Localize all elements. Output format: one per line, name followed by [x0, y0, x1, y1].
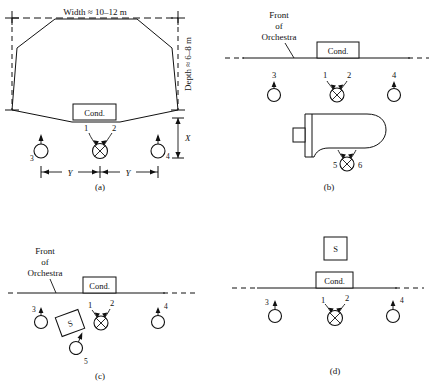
x-arrow-down — [175, 152, 180, 158]
mic-3-arrow — [39, 134, 44, 141]
mic-3-body — [268, 89, 281, 102]
x-dimension-label: X — [184, 133, 191, 143]
panel-c-caption: (c) — [95, 371, 105, 381]
y-arrow-2 — [92, 170, 98, 175]
mic-3-number: 3 — [30, 154, 34, 163]
piano-body — [305, 114, 386, 157]
figure-microphone-arrangements: Width ≈ 10–12 m Depth ≈ 6–8 m Cond. X 3 — [0, 0, 434, 384]
mic-5-number: 5 — [333, 160, 337, 170]
piano-bench — [293, 128, 305, 142]
mic-4-arrow — [392, 81, 397, 87]
mic-5-number: 5 — [84, 357, 88, 366]
mic-4-number: 4 — [400, 296, 404, 305]
mic-4: 4 — [151, 134, 170, 161]
mic-2-number: 2 — [110, 298, 114, 308]
soloist-box: S — [55, 309, 84, 336]
front-label-line1: Front — [35, 246, 55, 256]
front-label-line1: Front — [269, 10, 289, 20]
conductor-label: Cond. — [89, 281, 110, 291]
mic-pair-1-2: 1 2 — [84, 123, 116, 159]
conductor-label: Cond. — [324, 276, 345, 286]
mic-4-arrow — [156, 134, 161, 141]
mic-3-number: 3 — [265, 298, 269, 307]
panel-d-caption: (d) — [330, 366, 341, 376]
panel-b: Front of Orchestra Cond. 3 1 2 — [217, 0, 434, 192]
mic-pair-1-2: 1 2 — [88, 298, 114, 330]
mic-2-lead — [104, 133, 112, 145]
mic-2-number: 2 — [347, 70, 351, 80]
panel-a: Width ≈ 10–12 m Depth ≈ 6–8 m Cond. X 3 — [0, 0, 217, 192]
mic-pair-1-2: 1 2 — [321, 293, 349, 326]
x-arrow-up — [175, 118, 180, 124]
mic-5-body — [68, 340, 85, 357]
conductor-label: Cond. — [84, 108, 105, 118]
mic-4-number: 4 — [164, 302, 168, 311]
mic-3: 3 — [268, 70, 281, 102]
mic-3-number: 3 — [272, 70, 276, 80]
mic-4: 4 — [152, 302, 169, 329]
mic-4: 4 — [388, 70, 401, 102]
mic-3-body — [269, 310, 282, 323]
mic-3-arrow — [272, 81, 277, 87]
mic-4-body — [152, 316, 165, 329]
depth-dimension-label: Depth ≈ 6–8 m — [183, 37, 193, 91]
grand-piano — [293, 114, 386, 157]
mic-4: 4 — [387, 296, 405, 323]
mic-5-arrow — [78, 331, 85, 339]
front-label-line3: Orchestra — [28, 268, 63, 278]
mic-2-number: 2 — [112, 123, 116, 133]
y-arrow-3 — [102, 170, 108, 175]
panel-b-caption: (b) — [324, 182, 335, 192]
mic-4-number: 4 — [392, 70, 397, 80]
conductor-label: Cond. — [328, 46, 349, 56]
front-label-line3: Orchestra — [262, 32, 297, 42]
mic-1-number: 1 — [88, 300, 92, 310]
mic-4-arrow — [391, 300, 396, 306]
mic-3-arrow — [273, 300, 278, 306]
y-arrow-4 — [150, 170, 156, 175]
front-leader-line — [50, 279, 56, 293]
y-arrow-1 — [43, 170, 49, 175]
mic-1-number: 1 — [321, 295, 325, 305]
mic-3-number: 3 — [32, 305, 36, 314]
mic-2-number: 2 — [345, 293, 349, 303]
width-dimension-label: Width ≈ 10–12 m — [63, 7, 126, 17]
mic-3: 3 — [30, 134, 48, 163]
mic-3-body — [34, 144, 48, 158]
mic-1-number: 1 — [323, 70, 327, 80]
mic-1-number: 1 — [84, 123, 88, 133]
mic-6-number: 6 — [358, 160, 362, 170]
mic-4-number: 4 — [166, 152, 170, 161]
front-label-line2: of — [41, 257, 49, 267]
mic-3-body — [35, 316, 48, 329]
panel-a-caption: (a) — [95, 182, 105, 192]
front-label-line2: of — [275, 21, 283, 31]
mic-4-body — [388, 89, 401, 102]
mic-pair-5-6: 5 6 — [333, 150, 362, 171]
mic-3-arrow — [39, 307, 44, 313]
mic-3: 3 — [265, 298, 282, 323]
mic-4-arrow — [156, 307, 161, 313]
soloist-label: S — [333, 244, 338, 254]
panel-c: Front of Orchestra Cond. 3 S — [0, 192, 217, 384]
mic-pair-1-2: 1 2 — [323, 70, 351, 102]
mic-4-body — [387, 310, 400, 323]
mic-4-body — [151, 144, 165, 158]
front-leader-line — [285, 43, 294, 58]
mic-3: 3 — [32, 305, 48, 329]
panel-d: S Cond. 3 1 2 — [217, 192, 434, 384]
